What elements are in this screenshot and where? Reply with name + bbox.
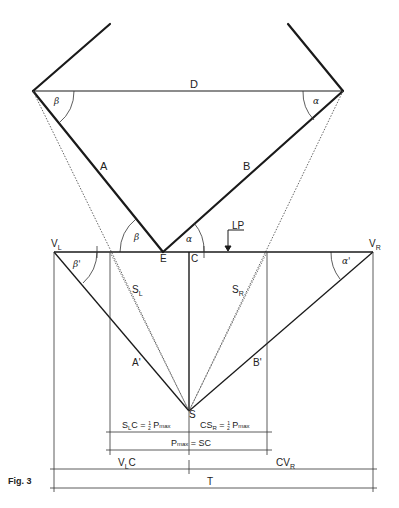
label-C: C	[191, 253, 198, 264]
label-alpha-bottom: α	[186, 234, 192, 244]
sight-lines	[33, 91, 343, 411]
label-VLC: VLC	[118, 457, 136, 470]
label-S_R: SR	[232, 284, 244, 297]
label-E: E	[160, 253, 167, 264]
eq-SLC: SLC = 12 Pmax	[122, 420, 171, 431]
label-S: S	[189, 409, 196, 420]
label-beta: β	[53, 96, 59, 106]
label-beta-prime: β'	[72, 259, 81, 269]
label-CVR: CVR	[276, 457, 295, 470]
label-beta-bottom: β	[133, 232, 139, 242]
lower-structure	[54, 252, 373, 411]
geometry-diagram: D A B β α β α E C LP VL VR β' α' SL SR A…	[0, 0, 399, 508]
label-V_L: VL	[51, 238, 62, 251]
label-B-prime: B'	[253, 357, 262, 368]
eq-CSR: CSR = 12 Pmax	[200, 420, 250, 431]
top-right-arm	[288, 24, 343, 91]
label-T: T	[207, 476, 213, 487]
dotted-right-outer	[189, 91, 343, 411]
arc-alpha-prime	[331, 252, 340, 279]
side-B	[163, 91, 343, 252]
label-D: D	[190, 78, 198, 90]
arc-beta-prime	[83, 252, 97, 283]
dimension-lines	[50, 432, 377, 488]
upper-structure	[33, 24, 343, 252]
label-LP: LP	[232, 220, 245, 231]
side-A-prime	[54, 252, 189, 411]
side-A	[33, 91, 163, 252]
label-alpha: α	[313, 96, 319, 106]
label-S_L: SL	[132, 284, 143, 297]
projection-lines	[54, 246, 373, 492]
ray-S_R	[189, 252, 267, 411]
side-B-prime	[189, 252, 373, 411]
arc-alpha-bottom	[194, 223, 204, 252]
lp-marker	[225, 230, 244, 251]
eq-pmax: Pmax = SC	[171, 438, 212, 448]
label-A: A	[100, 160, 108, 172]
label-B: B	[243, 160, 250, 172]
angle-arcs	[59, 91, 340, 283]
label-V_R: VR	[369, 238, 381, 251]
arc-beta-left	[59, 91, 74, 123]
label-alpha-prime: α'	[342, 256, 351, 266]
label-A-prime: A'	[132, 357, 141, 368]
top-left-arm	[33, 24, 110, 91]
figure-caption: Fig. 3	[8, 476, 32, 486]
